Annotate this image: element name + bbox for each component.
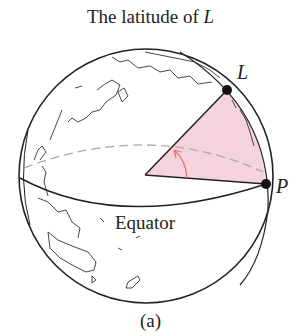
equator-label: Equator [115, 212, 175, 234]
point-L-label: L [237, 61, 248, 84]
point-L [222, 85, 232, 95]
globe-diagram [0, 0, 301, 336]
equator-line [20, 178, 266, 207]
latitude-sector [145, 90, 266, 184]
figure-caption: (a) [0, 310, 301, 332]
point-P [261, 179, 271, 189]
point-P-label: P [276, 175, 288, 198]
diagram-title: The latitude of L [0, 6, 301, 28]
